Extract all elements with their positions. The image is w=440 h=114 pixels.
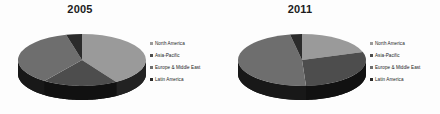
legend-swatch-icon (150, 54, 153, 57)
legend-swatch-icon (370, 42, 373, 45)
legend-item[interactable]: Latin America (150, 74, 222, 85)
legend-item-label: Asia-Pacific (155, 53, 180, 59)
legend-swatch-icon (370, 78, 373, 81)
pie-svg-2011 (236, 20, 368, 102)
chart-page: 2005 North AmericaAsia-PacificEurope & M… (0, 0, 440, 114)
legend-item-label: Latin America (375, 77, 403, 83)
pie-graphic-2005 (16, 20, 148, 102)
legend-item-label: North America (375, 41, 405, 47)
legend-swatch-icon (150, 66, 153, 69)
pie-top-group (18, 34, 146, 86)
legend-item-label: Asia-Pacific (375, 53, 400, 59)
legend-item-label: Europe & Middle East (375, 65, 420, 71)
legend-2011: North AmericaAsia-PacificEurope & Middle… (370, 38, 440, 86)
legend-item-label: Europe & Middle East (155, 65, 200, 71)
legend-swatch-icon (150, 78, 153, 81)
legend-item[interactable]: Latin America (370, 74, 440, 85)
legend-item-label: Latin America (155, 77, 183, 83)
pie-chart-2005: 2005 North AmericaAsia-PacificEurope & M… (0, 0, 220, 114)
legend-item-label: North America (155, 41, 185, 47)
chart-title-2011: 2011 (220, 3, 380, 15)
chart-title-2005: 2005 (0, 3, 160, 15)
pie-chart-2011: 2011 North AmericaAsia-PacificEurope & M… (220, 0, 440, 114)
legend-2005: North AmericaAsia-PacificEurope & Middle… (150, 38, 222, 86)
pie-graphic-2011 (236, 20, 368, 102)
legend-swatch-icon (370, 54, 373, 57)
legend-swatch-icon (370, 66, 373, 69)
legend-item[interactable]: Asia-Pacific (370, 50, 440, 61)
legend-item[interactable]: Asia-Pacific (150, 50, 222, 61)
pie-svg-2005 (16, 20, 148, 102)
legend-item[interactable]: Europe & Middle East (150, 62, 222, 73)
legend-swatch-icon (150, 42, 153, 45)
legend-item[interactable]: Europe & Middle East (370, 62, 440, 73)
pie-top-group (238, 34, 366, 86)
legend-item[interactable]: North America (370, 38, 440, 49)
legend-item[interactable]: North America (150, 38, 222, 49)
